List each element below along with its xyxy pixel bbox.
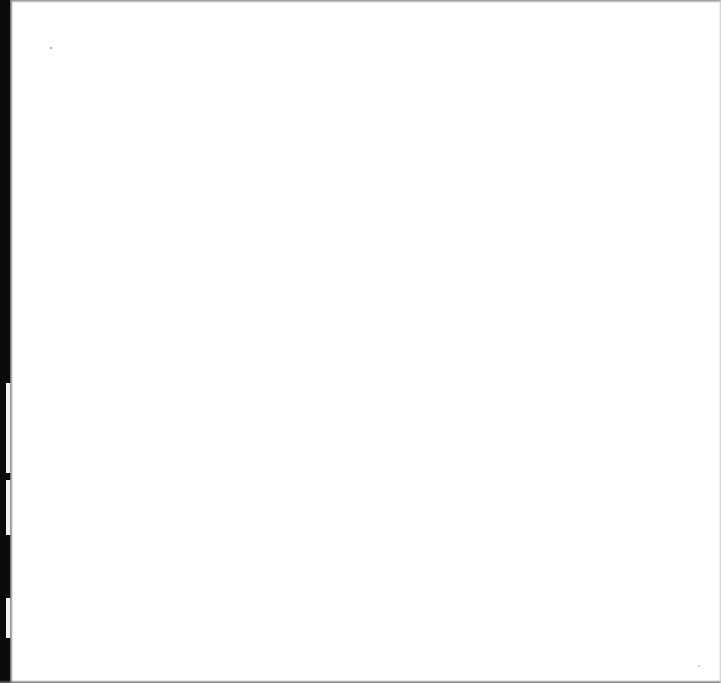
paper-tear-fragment — [6, 480, 11, 535]
scan-speck — [50, 47, 52, 49]
paper-tear-fragment — [6, 598, 11, 638]
scanner-left-edge — [0, 0, 10, 683]
scanner-top-shadow — [10, 0, 721, 3]
scanner-edge-shadow — [10, 0, 13, 683]
blank-scanned-page — [0, 0, 721, 683]
scan-speck — [698, 665, 700, 667]
paper-tear-fragment — [6, 383, 11, 473]
